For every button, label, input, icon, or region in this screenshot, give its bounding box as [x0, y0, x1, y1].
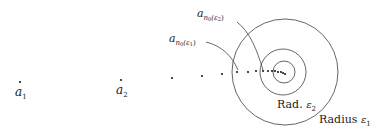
sequence-point: [280, 71, 282, 73]
radius-text: Radius: [319, 113, 361, 126]
sequence-point: [282, 72, 284, 74]
label-a2: a2: [116, 84, 128, 99]
sequence-point: [284, 73, 286, 75]
label-rad-eps2: Rad. ε2: [277, 99, 316, 113]
close-paren: ): [221, 14, 224, 22]
label-radius-eps1: Radius ε1: [319, 114, 371, 128]
eps-sub: 1: [366, 120, 370, 128]
rad-text: Rad.: [277, 98, 306, 111]
circle-inner: [273, 61, 295, 83]
label-an0-eps1: an0(ε1): [169, 33, 196, 47]
label-an0-eps1-subscript: n0(ε1): [176, 39, 196, 47]
label-a1-sub: 1: [22, 93, 26, 101]
sequence-point: [221, 73, 223, 75]
sequence-point: [262, 70, 264, 72]
sequence-point: [201, 75, 203, 77]
close-paren: ): [193, 39, 196, 47]
label-an0-eps2-subscript: n0(ε2): [204, 14, 224, 22]
pointer-an0-eps2: [237, 22, 263, 70]
label-an0-eps2: an0(ε2): [197, 8, 224, 22]
sequence-point: [271, 70, 273, 72]
sequence-point: [267, 70, 269, 72]
label-a1: a1: [15, 86, 27, 101]
sequence-point: [236, 71, 238, 73]
sequence-points: [19, 70, 286, 83]
sequence-point: [120, 79, 122, 81]
pointer-an0-eps1: [206, 42, 238, 70]
sequence-point: [247, 71, 249, 73]
sequence-point: [274, 70, 276, 72]
sequence-point: [255, 70, 257, 72]
sequence-point: [277, 71, 279, 73]
eps-sub: 2: [312, 105, 316, 113]
sequence-point: [171, 77, 173, 79]
sequence-point: [19, 81, 21, 83]
label-a2-sub: 2: [123, 91, 127, 99]
